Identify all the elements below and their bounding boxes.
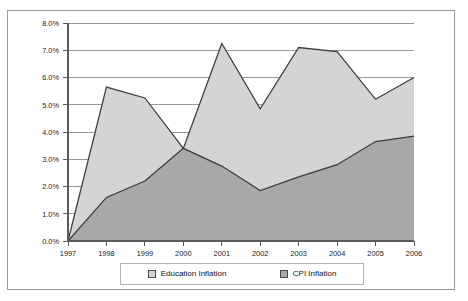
y-tick-label-3.0%: 3.0% <box>42 155 59 164</box>
area-chart-svg: 0.0%1.0%2.0%3.0%4.0%5.0%6.0%7.0%8.0% 199… <box>8 11 454 289</box>
y-axis-tick-labels: 0.0%1.0%2.0%3.0%4.0%5.0%6.0%7.0%8.0% <box>42 19 59 246</box>
y-tick-label-6.0%: 6.0% <box>42 73 59 82</box>
legend-swatch-cpi-inflation <box>280 270 288 278</box>
legend-swatch-education-inflation <box>148 270 156 278</box>
x-tick-label-2004: 2004 <box>329 249 345 258</box>
y-tick-label-7.0%: 7.0% <box>42 46 59 55</box>
x-tick-label-1999: 1999 <box>137 249 153 258</box>
legend-label-cpi-inflation: CPI Inflation <box>293 270 337 278</box>
y-tick-label-4.0%: 4.0% <box>42 128 59 137</box>
chart-legend: Education Inflation CPI Inflation <box>120 263 364 285</box>
x-tick-label-2003: 2003 <box>290 249 306 258</box>
y-tick-label-8.0%: 8.0% <box>42 19 59 28</box>
x-tick-label-2006: 2006 <box>406 249 422 258</box>
plot-area: 0.0%1.0%2.0%3.0%4.0%5.0%6.0%7.0%8.0% 199… <box>8 11 454 289</box>
y-tick-label-0.0%: 0.0% <box>42 237 59 246</box>
x-tick-label-2000: 2000 <box>175 249 191 258</box>
y-tick-label-5.0%: 5.0% <box>42 101 59 110</box>
x-tick-label-2005: 2005 <box>367 249 383 258</box>
legend-label-education-inflation: Education Inflation <box>161 270 227 278</box>
x-tick-label-2001: 2001 <box>214 249 230 258</box>
y-tick-marks-group <box>63 23 68 241</box>
x-tick-label-1997: 1997 <box>60 249 76 258</box>
y-tick-label-2.0%: 2.0% <box>42 182 59 191</box>
legend-item-education-inflation: Education Inflation <box>148 270 227 278</box>
x-axis-tick-labels: 1997199819992000200120022003200420052006 <box>60 249 422 258</box>
x-tick-marks-group <box>68 241 414 246</box>
series-areas-group <box>68 43 414 241</box>
chart-frame: 0.0%1.0%2.0%3.0%4.0%5.0%6.0%7.0%8.0% 199… <box>7 10 455 290</box>
legend-item-cpi-inflation: CPI Inflation <box>280 270 337 278</box>
y-tick-label-1.0%: 1.0% <box>42 210 59 219</box>
x-tick-label-2002: 2002 <box>252 249 268 258</box>
x-tick-label-1998: 1998 <box>98 249 114 258</box>
